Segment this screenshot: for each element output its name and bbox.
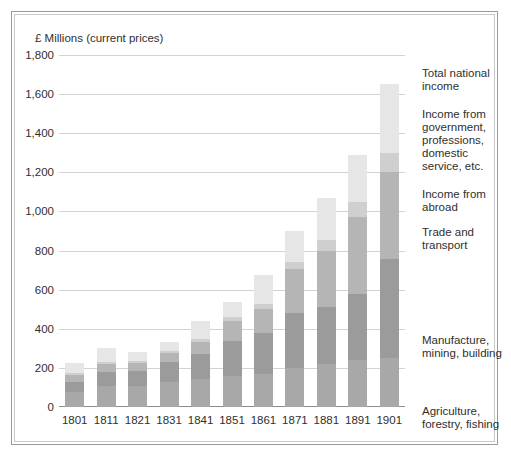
y-axis-tick-label: 800 [8, 245, 54, 257]
legend-label-total-national-income: Total national income [422, 67, 508, 93]
x-axis-tick-label: 1891 [345, 414, 371, 426]
bar-1831 [160, 342, 179, 407]
bar-segment [380, 153, 399, 173]
bar-1881 [317, 198, 336, 407]
bar-segment [160, 362, 179, 382]
bar-1901 [380, 84, 399, 407]
bar-segment [223, 341, 242, 376]
x-axis-tick-label: 1861 [251, 414, 277, 426]
y-axis-tick-label: 1,000 [8, 205, 54, 217]
bar-segment [160, 342, 179, 352]
x-axis-tick-label: 1851 [219, 414, 245, 426]
x-axis-tick-label: 1841 [188, 414, 214, 426]
bar-segment [191, 321, 210, 339]
bar-segment [65, 392, 84, 407]
bar-segment [285, 368, 304, 407]
bar-segment [128, 371, 147, 386]
x-axis-tick-label: 1821 [125, 414, 151, 426]
bar-segment [380, 358, 399, 407]
bar-segment [128, 386, 147, 408]
bar-segment [191, 354, 210, 378]
bar-segment [128, 363, 147, 371]
y-axis-tick-label: 200 [8, 362, 54, 374]
bar-segment [317, 307, 336, 364]
bar-segment [254, 275, 273, 304]
bar-segment [65, 363, 84, 373]
y-axis-tick-label: 1,200 [8, 166, 54, 178]
bar-1841 [191, 321, 210, 407]
gridline [59, 133, 405, 134]
bar-segment [317, 198, 336, 240]
x-axis-tick-label: 1831 [156, 414, 182, 426]
bar-segment [348, 217, 367, 293]
bar-segment [65, 382, 84, 393]
bar-segment [65, 375, 84, 382]
y-axis-tick-label: 600 [8, 284, 54, 296]
y-axis-tick-label: 1,800 [8, 49, 54, 61]
x-axis-tick-label: 1871 [282, 414, 308, 426]
y-axis-tick-label: 1,400 [8, 127, 54, 139]
y-axis-title: £ Millions (current prices) [35, 32, 163, 44]
y-axis-tick-label: 1,600 [8, 88, 54, 100]
bar-segment [223, 376, 242, 407]
bar-segment [348, 294, 367, 360]
bar-segment [348, 202, 367, 218]
bar-segment [97, 364, 116, 372]
bar-segment [317, 364, 336, 407]
x-axis-tick-label: 1811 [94, 414, 119, 426]
bar-segment [348, 155, 367, 202]
bar-segment [128, 352, 147, 361]
bar-segment [285, 269, 304, 313]
gridline [59, 55, 405, 56]
bar-1851 [223, 302, 242, 407]
bar-segment [254, 374, 273, 407]
x-axis-tick-label: 1801 [62, 414, 88, 426]
bar-segment [380, 84, 399, 152]
x-axis-tick-label: 1881 [314, 414, 340, 426]
bar-segment [191, 379, 210, 407]
bar-segment [223, 302, 242, 317]
bar-1861 [254, 275, 273, 407]
legend-label-income-from-government: Income from government, professions, dom… [422, 108, 508, 173]
bar-segment [97, 348, 116, 362]
bar-1891 [348, 155, 367, 407]
bar-segment [380, 172, 399, 259]
bar-segment [97, 372, 116, 387]
bar-1871 [285, 231, 304, 407]
bar-segment [285, 313, 304, 368]
legend-label-agriculture-forestry-fishing: Agriculture, forestry, fishing [422, 405, 508, 431]
bar-segment [191, 342, 210, 355]
gridline [59, 94, 405, 95]
bar-1811 [97, 348, 116, 407]
bar-1821 [128, 352, 147, 407]
legend-label-manufacture-mining-building: Manufacture, mining, building [422, 334, 508, 360]
bar-segment [317, 251, 336, 308]
y-axis-tick-label: 400 [8, 323, 54, 335]
chart-figure: £ Millions (current prices) 020040060080… [11, 11, 498, 445]
bar-segment [254, 333, 273, 374]
plot-area: 02004006008001,0001,2001,4001,6001,80018… [59, 55, 405, 407]
y-axis-tick-label: 0 [8, 401, 54, 413]
bar-segment [380, 259, 399, 358]
bar-segment [97, 386, 116, 407]
bar-segment [317, 240, 336, 251]
bar-segment [160, 353, 179, 362]
bar-segment [348, 360, 367, 407]
bar-segment [160, 382, 179, 407]
bar-segment [285, 262, 304, 269]
bar-1801 [65, 363, 84, 407]
legend-label-trade-and-transport: Trade and transport [422, 226, 508, 252]
bar-segment [223, 321, 242, 341]
x-axis-tick-label: 1901 [376, 414, 402, 426]
bar-segment [254, 309, 273, 332]
bar-segment [285, 231, 304, 262]
legend-label-income-from-abroad: Income from abroad [422, 188, 508, 214]
